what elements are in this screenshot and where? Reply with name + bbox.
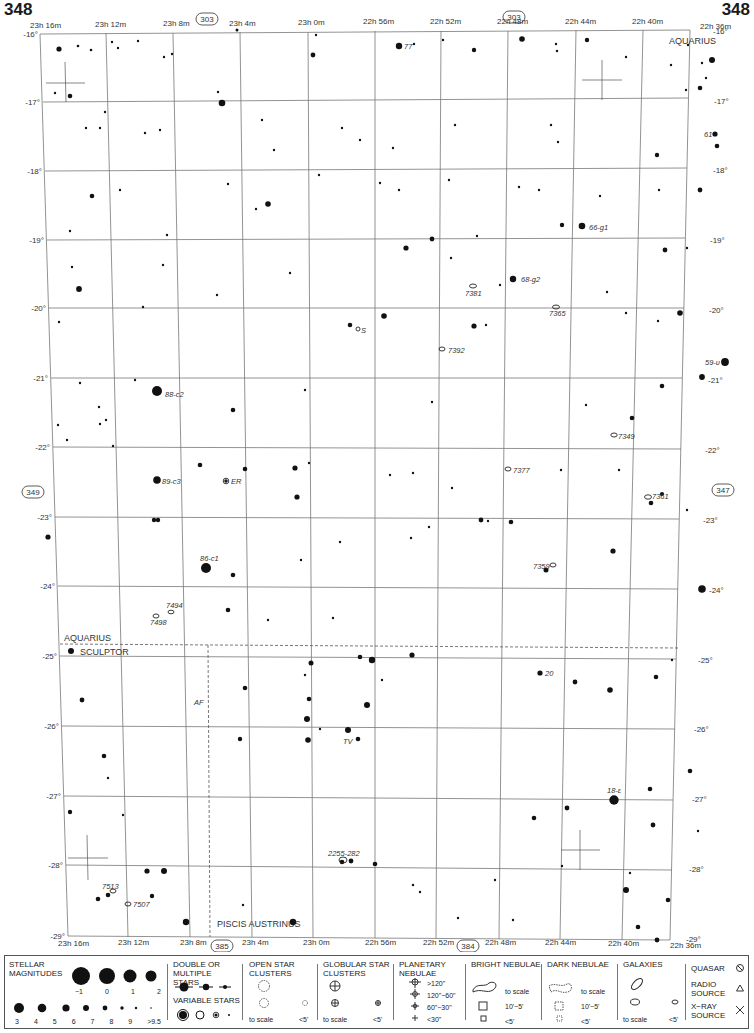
dec-label: -16°: [23, 30, 38, 39]
svg-text:7377: 7377: [513, 466, 531, 475]
legend: STELLAR MAGNITUDES −1 0 1 2 3 4 5 6 7 8 …: [4, 955, 749, 1029]
ra-label: 23h 16m: [30, 21, 61, 30]
svg-text:-18°: -18°: [27, 167, 42, 176]
svg-text:23h 4m: 23h 4m: [229, 19, 256, 28]
svg-text:2255-282: 2255-282: [327, 849, 361, 858]
svg-text:-23°: -23°: [37, 513, 52, 522]
svg-text:-17°: -17°: [25, 98, 40, 107]
svg-text:-19°: -19°: [29, 236, 44, 245]
adjacent-chart-left[interactable]: 349: [26, 488, 40, 497]
adjacent-chart-refs: 303 303 349 347 385 384: [22, 11, 734, 952]
adjacent-chart-right[interactable]: 347: [716, 486, 730, 495]
svg-text:7359: 7359: [533, 562, 551, 571]
svg-text:88-c2: 88-c2: [165, 390, 185, 399]
mag-label: −1: [75, 988, 83, 995]
svg-text:7381: 7381: [465, 289, 482, 298]
object-label: 77: [404, 42, 413, 51]
svg-text:-21°: -21°: [708, 376, 723, 385]
svg-text:23h 8m: 23h 8m: [180, 938, 207, 947]
svg-text:-22°: -22°: [705, 446, 720, 455]
svg-text:-25°: -25°: [698, 656, 713, 665]
legend-double-variable-stars: DOUBLE OR MULTIPLE STARS VARIABLE STARS: [173, 960, 239, 1024]
svg-text:23h 4m: 23h 4m: [242, 938, 269, 947]
svg-text:22h 44m: 22h 44m: [545, 938, 576, 947]
constellation-sculptor: SCULPTOR: [80, 647, 129, 657]
svg-text:7507: 7507: [133, 900, 151, 909]
legend-sources: QUASAR RADIO SOURCE X−RAY SOURCE: [691, 960, 747, 1024]
svg-text:7513: 7513: [102, 882, 120, 891]
svg-text:-23°: -23°: [703, 516, 718, 525]
legend-planetary-nebulae: PLANETARY NEBULAE >120" 120"−60" 60"−30"…: [399, 960, 465, 1024]
svg-text:-24°: -24°: [40, 582, 55, 591]
svg-text:-26°: -26°: [694, 725, 709, 734]
svg-text:S: S: [361, 326, 366, 335]
svg-text:66-g1: 66-g1: [589, 223, 608, 232]
svg-text:23h 0m: 23h 0m: [298, 18, 325, 27]
svg-text:-20°: -20°: [709, 306, 724, 315]
svg-text:-16°: -16°: [713, 27, 728, 36]
svg-text:23h 0m: 23h 0m: [303, 938, 330, 947]
svg-text:22h 44m: 22h 44m: [565, 17, 596, 26]
svg-text:ER: ER: [231, 477, 242, 486]
svg-text:22h 40m: 22h 40m: [632, 17, 663, 26]
svg-text:20: 20: [544, 669, 554, 678]
legend-bright-nebulae: BRIGHT NEBULAE to scale 10'−5' <5': [471, 960, 541, 1024]
svg-text:7392: 7392: [448, 346, 466, 355]
constellation-boundary: [60, 644, 678, 937]
svg-text:7365: 7365: [549, 309, 567, 318]
constellation-aquarius: AQUARIUS: [64, 633, 111, 643]
svg-text:-26°: -26°: [44, 722, 59, 731]
svg-text:22h 48m: 22h 48m: [485, 938, 516, 947]
xray-source-icon: [736, 1006, 744, 1014]
svg-text:-19°: -19°: [710, 236, 725, 245]
svg-text:23h 12m: 23h 12m: [95, 20, 126, 29]
adjacent-chart-bottom-left[interactable]: 385: [215, 942, 229, 951]
svg-text:68-g2: 68-g2: [521, 275, 541, 284]
svg-text:59-υ: 59-υ: [705, 358, 720, 367]
svg-text:23h 12m: 23h 12m: [118, 938, 149, 947]
svg-text:-21°: -21°: [33, 374, 48, 383]
stars: [45, 29, 728, 943]
legend-globular-clusters: GLOBULAR STAR CLUSTERS to scale <5': [323, 960, 393, 1024]
star-chart: 23h 16m 23h 12m 23h 8m 23h 4m 23h 0m 22h…: [0, 0, 754, 952]
legend-open-clusters: OPEN STAR CLUSTERS to scale <5': [249, 960, 319, 1024]
svg-text:22h 40m: 22h 40m: [608, 939, 639, 948]
svg-text:89-c3: 89-c3: [162, 477, 182, 486]
radio-source-icon: [737, 985, 744, 991]
svg-text:-25°: -25°: [42, 652, 57, 661]
svg-text:TV: TV: [343, 737, 354, 746]
dec-line: [40, 30, 690, 34]
svg-text:7361: 7361: [652, 492, 669, 501]
adjacent-chart-top-right[interactable]: 303: [507, 13, 521, 22]
adjacent-chart-top-left[interactable]: 303: [200, 15, 214, 24]
legend-stellar-magnitudes: STELLAR MAGNITUDES −1 0 1 2 3 4 5 6 7 8 …: [9, 960, 161, 1024]
svg-text:86-c1: 86-c1: [200, 554, 219, 563]
svg-text:-28°: -28°: [689, 865, 704, 874]
svg-text:18-ε: 18-ε: [607, 786, 622, 795]
svg-text:7349: 7349: [618, 432, 636, 441]
svg-text:61: 61: [704, 130, 712, 139]
svg-text:-29°: -29°: [50, 932, 65, 941]
svg-text:-17°: -17°: [714, 97, 729, 106]
svg-text:-24°: -24°: [709, 586, 724, 595]
svg-text:22h 52m: 22h 52m: [423, 938, 454, 947]
svg-text:22h 56m: 22h 56m: [363, 17, 394, 26]
svg-text:-27°: -27°: [46, 792, 61, 801]
constellation-piscis-austrinus: PISCIS AUSTRINUS: [217, 919, 301, 929]
svg-text:-18°: -18°: [713, 166, 728, 175]
svg-text:AF: AF: [193, 698, 204, 707]
object-labels: 77 61 66-g1 68-g2 7381 7365 S 7392 59-υ …: [102, 42, 720, 909]
grid: [40, 30, 690, 940]
svg-text:-27°: -27°: [692, 795, 707, 804]
adjacent-chart-bottom-right[interactable]: 384: [461, 942, 475, 951]
constellation-aquarius-top: AQUARIUS: [669, 36, 716, 46]
pn-size: >120": [427, 978, 456, 990]
svg-text:22h 52m: 22h 52m: [430, 17, 461, 26]
svg-text:-28°: -28°: [48, 861, 63, 870]
svg-text:-20°: -20°: [31, 304, 46, 313]
svg-text:7498: 7498: [150, 618, 168, 627]
legend-galaxies: GALAXIES to scale <5': [623, 960, 689, 1024]
legend-dark-nebulae: DARK NEBULAE to scale 10'−5' <5': [547, 960, 617, 1024]
svg-text:22h 56m: 22h 56m: [365, 938, 396, 947]
svg-text:-29°: -29°: [686, 935, 701, 944]
